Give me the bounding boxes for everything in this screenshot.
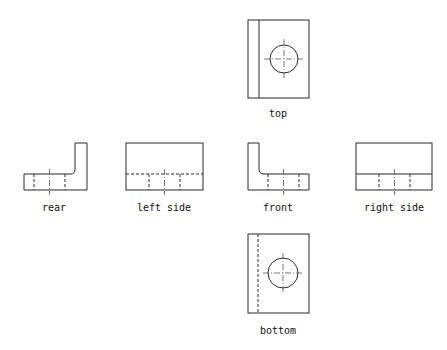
view-right-side: right side [356,143,432,213]
label-top: top [269,108,287,119]
label-front: front [263,202,293,213]
rear-outline [24,143,87,190]
view-bottom: bottom [248,234,309,336]
view-left-side: left side [126,143,203,213]
view-rear: rear [24,143,87,213]
view-top: top [248,20,309,119]
view-front: front [248,143,309,213]
label-left-side: left side [137,202,191,213]
right-outline [356,143,432,190]
front-outline [248,143,309,190]
label-right-side: right side [364,202,424,213]
bottom-outline [248,234,309,313]
label-bottom: bottom [260,325,296,336]
label-rear: rear [42,202,66,213]
orthographic-drawing: top rear left side front right side [0,0,447,350]
